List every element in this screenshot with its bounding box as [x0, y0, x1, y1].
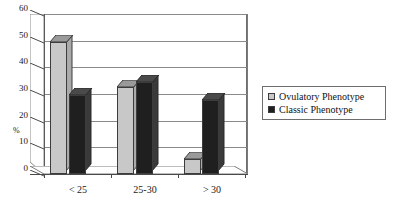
- y-tick-60: [30, 8, 45, 20]
- bar-classic-25to30: [136, 75, 153, 174]
- x-axis-line: [30, 174, 248, 175]
- legend-item-ovulatory: Ovulatory Phenotype: [268, 90, 381, 103]
- y-tick-label-30: 30: [11, 83, 28, 93]
- y-tick-40: [30, 61, 45, 73]
- legend-swatch-icon: [268, 93, 275, 100]
- x-label-25to30: 25-30: [115, 184, 175, 195]
- x-label-gt30: > 30: [182, 184, 242, 195]
- x-tick-2: [178, 174, 179, 178]
- y-tick-10: [30, 141, 45, 153]
- bar-front-face: [184, 159, 201, 174]
- bar-front-face: [69, 95, 86, 174]
- x-tick-0: [44, 174, 45, 178]
- bar-front-face: [50, 42, 67, 174]
- y-tick-label-40: 40: [11, 56, 28, 66]
- plot-right-edge: [247, 14, 248, 175]
- gridline-50: [44, 41, 247, 42]
- bar-side-face: [85, 89, 92, 170]
- x-tick-1: [111, 174, 112, 178]
- bar-chart: 60 50 40 30 20 10 0 %: [0, 0, 393, 208]
- bar-classic-gt30: [202, 93, 219, 174]
- bar-side-face: [218, 94, 225, 170]
- y-tick-label-60: 60: [11, 3, 28, 13]
- bar-front-face: [136, 82, 153, 174]
- bar-classic-lt25: [69, 88, 86, 174]
- bar-ovulatory-lt25: [50, 35, 67, 174]
- y-tick-30: [30, 88, 45, 100]
- chart-legend: Ovulatory Phenotype Classic Phenotype: [262, 86, 386, 120]
- y-axis-title: %: [13, 126, 20, 135]
- gridline-60: [44, 14, 247, 15]
- legend-label: Classic Phenotype: [279, 104, 353, 115]
- bar-side-face: [152, 76, 159, 170]
- legend-item-classic: Classic Phenotype: [268, 103, 381, 116]
- x-tick-3: [245, 174, 246, 178]
- y-tick-0: [30, 168, 45, 180]
- bar-ovulatory-25to30: [117, 80, 134, 174]
- legend-label: Ovulatory Phenotype: [279, 91, 364, 102]
- x-label-lt25: < 25: [48, 184, 108, 195]
- y-tick-label-20: 20: [11, 110, 28, 120]
- bar-ovulatory-gt30: [184, 152, 201, 174]
- gridline-40: [44, 67, 247, 68]
- bar-front-face: [202, 100, 219, 174]
- y-tick-20: [30, 115, 45, 127]
- bar-front-face: [117, 87, 134, 174]
- y-tick-label-0: 0: [11, 163, 28, 173]
- y-tick-label-10: 10: [11, 136, 28, 146]
- y-tick-label-50: 50: [11, 30, 28, 40]
- y-tick-50: [30, 35, 45, 47]
- legend-swatch-icon: [268, 106, 275, 113]
